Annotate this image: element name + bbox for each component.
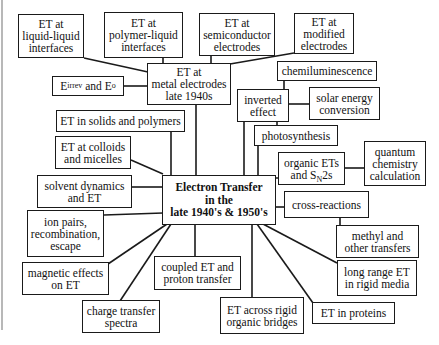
node-et-polymer-liquid-interfaces: ET at polymer-liquid interfaces bbox=[104, 12, 183, 58]
node-cross-reactions: cross-reactions bbox=[284, 191, 369, 218]
node-ion-pairs: ion pairs, recombination, escape bbox=[27, 210, 104, 257]
node-chemiluminescence: chemiluminescence bbox=[277, 61, 377, 81]
node-et-modified-electrodes: ET at modified electrodes bbox=[294, 13, 354, 54]
electron-transfer-concept-map: Electron Transfer in the late 1940's & 1… bbox=[0, 0, 439, 345]
node-photosynthesis: photosynthesis bbox=[254, 125, 338, 146]
node-et-metal-electrodes: ET at metal electrodes late 1940s bbox=[147, 63, 231, 105]
link-longrange-center bbox=[263, 224, 337, 263]
node-et-solids-polymers: ET in solids and polymers bbox=[56, 110, 185, 132]
node-et-colloids-micelles: ET at colloids and micelles bbox=[55, 136, 131, 169]
link-liquid-liquid-metal bbox=[84, 58, 148, 72]
node-coupled-et-proton-transfer: coupled ET and proton transfer bbox=[154, 256, 241, 290]
node-organic-ets-sn2s: organic ETs and SN2s bbox=[278, 152, 345, 185]
node-inverted-effect: inverted effect bbox=[237, 89, 289, 122]
node-solar-energy-conversion: solar energy conversion bbox=[309, 87, 380, 120]
node-et-rigid-organic-bridges: ET across rigid organic bridges bbox=[220, 297, 304, 334]
node-solvent-dynamics: solvent dynamics and ET bbox=[37, 175, 132, 208]
node-center-electron-transfer: Electron Transfer in the late 1940's & 1… bbox=[162, 175, 276, 225]
link-colloids-center bbox=[131, 160, 163, 174]
node-charge-transfer-spectra: charge transfer spectra bbox=[82, 300, 160, 333]
link-ionpairs-center bbox=[104, 213, 163, 215]
node-quantum-chemistry-calculation: quantum chemistry calculation bbox=[364, 141, 426, 186]
eirrev-mid: and E bbox=[82, 80, 111, 92]
node-et-in-proteins: ET in proteins bbox=[312, 302, 395, 324]
node-magnetic-effects: magnetic effects on ET bbox=[22, 262, 109, 295]
eirrev-e1: E bbox=[60, 80, 67, 92]
node-eirrev-and-eo: Eirrev and Eo bbox=[52, 76, 124, 96]
node-et-semiconductor-electrodes: ET at semiconductor electrodes bbox=[199, 13, 275, 56]
node-long-range-et: long range ET in rigid media bbox=[337, 260, 417, 296]
node-et-liquid-liquid-interfaces: ET at liquid-liquid interfaces bbox=[18, 14, 84, 58]
node-methyl-other-transfers: methyl and other transfers bbox=[336, 225, 419, 258]
